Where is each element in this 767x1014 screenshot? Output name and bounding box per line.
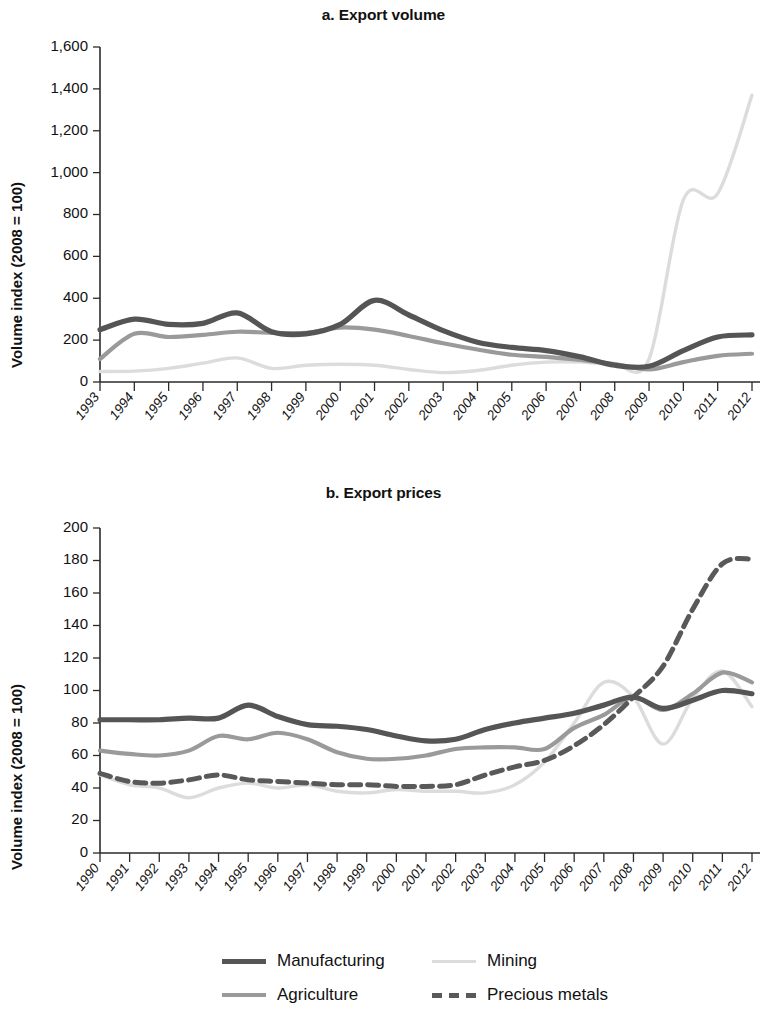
x-tick-label: 1994 xyxy=(106,390,136,423)
legend-swatch-icon xyxy=(432,960,476,963)
y-tick-label: 20 xyxy=(71,810,88,827)
y-tick-label: 0 xyxy=(80,372,88,389)
y-tick-label: 180 xyxy=(63,550,88,567)
x-tick-label: 2007 xyxy=(575,860,606,894)
x-tick-label: 1996 xyxy=(250,860,281,893)
x-tick-label: 1997 xyxy=(209,389,240,422)
y-tick-label: 400 xyxy=(63,288,88,305)
x-tick-label: 1996 xyxy=(175,389,206,422)
x-tick-label: 2004 xyxy=(486,861,517,895)
x-tick-label: 1993 xyxy=(161,860,192,893)
y-tick-label: 800 xyxy=(63,204,88,221)
legend-swatch-icon xyxy=(222,993,266,997)
y-tick-label: 160 xyxy=(63,583,88,600)
x-tick-label: 2009 xyxy=(635,860,666,894)
x-tick-label: 2008 xyxy=(605,860,636,894)
y-tick-label: 80 xyxy=(71,713,88,730)
x-tick-label: 2011 xyxy=(690,390,720,423)
x-tick-label: 2007 xyxy=(552,389,583,423)
panel-export-prices: b. Export prices Volume index (2008 = 10… xyxy=(0,478,767,938)
y-tick-label: 0 xyxy=(80,843,88,860)
legend-item-label: Precious metals xyxy=(487,985,608,1005)
x-tick-label: 2009 xyxy=(620,389,651,423)
series-line-mining xyxy=(100,95,752,372)
x-tick-label: 2002 xyxy=(427,860,458,894)
x-tick-label: 1998 xyxy=(309,860,340,893)
x-tick-label: 1994 xyxy=(191,861,221,894)
y-tick-label: 1,200 xyxy=(50,121,88,138)
x-tick-label: 2003 xyxy=(415,389,446,423)
y-tick-label: 1,000 xyxy=(50,163,88,180)
y-tick-label: 100 xyxy=(63,680,88,697)
export-volume-and-prices-figure: a. Export volume Volume index (2008 = 10… xyxy=(0,0,767,1014)
panel-export-volume: a. Export volume Volume index (2008 = 10… xyxy=(0,0,767,470)
legend-swatch-icon xyxy=(432,993,476,998)
x-tick-label: 2000 xyxy=(312,389,343,423)
x-tick-label: 2000 xyxy=(368,860,399,894)
y-tick-label: 140 xyxy=(63,615,88,632)
x-tick-label: 2006 xyxy=(518,389,549,423)
series-line-precious-metals xyxy=(100,558,752,786)
chart-legend: ManufacturingMiningAgriculturePrecious m… xyxy=(0,944,767,1014)
y-tick-label: 40 xyxy=(71,778,88,795)
x-tick-label: 2002 xyxy=(380,389,411,423)
panel-a-plot: 02004006008001,0001,2001,4001,6001993199… xyxy=(0,0,767,470)
x-tick-label: 2001 xyxy=(397,861,428,895)
x-tick-label: 2004 xyxy=(449,390,480,424)
y-tick-label: 120 xyxy=(63,648,88,665)
x-tick-label: 2012 xyxy=(723,389,754,423)
y-tick-label: 1,600 xyxy=(50,37,88,54)
y-tick-label: 60 xyxy=(71,745,88,762)
x-tick-label: 1999 xyxy=(278,389,309,422)
x-tick-label: 1999 xyxy=(339,860,370,893)
legend-item-label: Agriculture xyxy=(277,985,358,1005)
x-tick-label: 2001 xyxy=(346,390,377,424)
panel-b-plot: 0204060801001201401601802001990199119921… xyxy=(0,478,767,938)
legend-item-mining[interactable]: Mining xyxy=(432,951,642,971)
legend-item-manufacturing[interactable]: Manufacturing xyxy=(222,951,432,971)
y-tick-label: 200 xyxy=(63,330,88,347)
x-tick-label: 2005 xyxy=(483,389,514,423)
x-tick-label: 2010 xyxy=(664,860,695,894)
legend-item-label: Mining xyxy=(487,951,537,971)
x-tick-label: 1992 xyxy=(131,860,162,893)
y-tick-label: 200 xyxy=(63,518,88,535)
x-tick-label: 2008 xyxy=(586,389,617,423)
legend-swatch-icon xyxy=(222,959,266,964)
x-tick-label: 1997 xyxy=(279,860,310,893)
x-tick-label: 2006 xyxy=(546,860,577,894)
y-tick-label: 1,400 xyxy=(50,79,88,96)
x-tick-label: 2011 xyxy=(694,861,724,894)
x-tick-label: 2010 xyxy=(655,389,686,423)
legend-item-label: Manufacturing xyxy=(277,951,385,971)
x-tick-label: 1993 xyxy=(72,389,103,422)
legend-item-precious-metals[interactable]: Precious metals xyxy=(432,985,642,1005)
x-tick-label: 1991 xyxy=(102,861,132,894)
x-tick-label: 1995 xyxy=(141,389,172,422)
x-tick-label: 2003 xyxy=(457,860,488,894)
x-tick-label: 2012 xyxy=(723,860,754,894)
y-tick-label: 600 xyxy=(63,246,88,263)
x-tick-label: 1995 xyxy=(220,860,251,893)
x-tick-label: 1998 xyxy=(244,389,275,422)
x-tick-label: 1990 xyxy=(72,860,103,893)
legend-item-agriculture[interactable]: Agriculture xyxy=(222,985,432,1005)
x-tick-label: 2005 xyxy=(516,860,547,894)
